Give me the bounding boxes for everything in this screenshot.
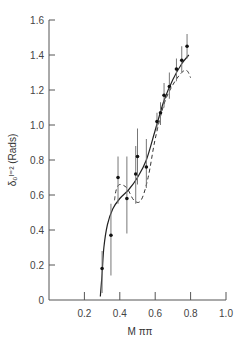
y-tick-label: 1.0	[30, 120, 44, 131]
y-tick-label: 1.6	[30, 15, 44, 26]
x-axis-label: M ππ	[128, 326, 153, 337]
x-tick-label: 0.4	[113, 308, 127, 319]
fit-curves	[100, 55, 190, 297]
data-point	[109, 233, 113, 237]
x-tick-label: 0.8	[184, 308, 198, 319]
data-point	[145, 165, 149, 169]
data-point	[134, 172, 138, 176]
fit-curve-solid	[100, 55, 189, 297]
data-point	[116, 176, 120, 180]
y-tick-label: 1.4	[30, 50, 44, 61]
y-tick-label: 0.4	[30, 225, 44, 236]
data-point	[155, 120, 159, 124]
data-point	[159, 111, 163, 115]
y-tick-label: 0.8	[30, 155, 44, 166]
data-point	[125, 197, 129, 201]
x-tick-label: 1.0	[219, 308, 233, 319]
data-point	[100, 267, 104, 271]
data-point	[162, 93, 166, 97]
fit-curve-dashed	[114, 70, 190, 202]
y-tick-label: 0.6	[30, 190, 44, 201]
data-point	[175, 67, 179, 71]
y-tick-label: 0.2	[30, 260, 44, 271]
y-tick-label: 1.2	[30, 85, 44, 96]
data-point	[185, 44, 189, 48]
data-point	[180, 58, 184, 62]
y-tick-label: 0	[38, 295, 44, 306]
data-point	[168, 85, 172, 89]
tick-labels: 00.20.40.60.81.01.21.41.60.20.40.60.81.0	[30, 15, 233, 319]
phase-shift-chart: 00.20.40.60.81.01.21.41.60.20.40.60.81.0…	[0, 0, 242, 350]
data-point	[136, 155, 140, 159]
x-tick-label: 0.2	[77, 308, 91, 319]
x-tick-label: 0.6	[148, 308, 162, 319]
y-axis-label: δ₀ᴵ⁼² (Rads)	[7, 134, 18, 187]
